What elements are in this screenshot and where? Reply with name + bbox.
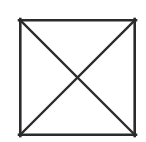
square-with-diagonals-diagram <box>0 0 146 142</box>
figure-canvas <box>0 0 146 142</box>
